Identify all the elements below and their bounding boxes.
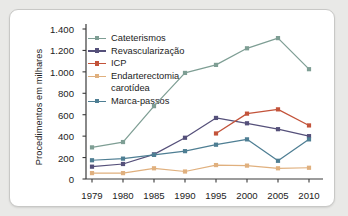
- series-marker: [307, 166, 311, 170]
- chart-plot-area: [10, 10, 336, 208]
- series-marker: [152, 166, 156, 170]
- series-marker: [121, 157, 125, 161]
- series-marker: [245, 121, 249, 125]
- series-marker: [183, 169, 187, 173]
- series-marker: [245, 164, 249, 168]
- series-marker: [90, 171, 94, 175]
- series-marker: [214, 131, 218, 135]
- series-marker: [121, 162, 125, 166]
- series-marker: [307, 123, 311, 127]
- series-marker: [121, 140, 125, 144]
- series-line: [216, 109, 309, 133]
- series-marker: [276, 36, 280, 40]
- series-marker: [245, 46, 249, 50]
- series-marker: [307, 137, 311, 141]
- series-marker: [90, 145, 94, 149]
- series-marker: [214, 63, 218, 67]
- series-marker: [276, 107, 280, 111]
- series-marker: [307, 67, 311, 71]
- series-marker: [276, 166, 280, 170]
- series-marker: [245, 137, 249, 141]
- series-marker: [183, 71, 187, 75]
- chart-card: Procedimentos em milhares 1.400 1.200 1.…: [9, 9, 335, 207]
- series-marker: [152, 153, 156, 157]
- series-marker: [276, 159, 280, 163]
- series-marker: [183, 136, 187, 140]
- series-marker: [152, 104, 156, 108]
- series-marker: [90, 165, 94, 169]
- series-marker: [245, 112, 249, 116]
- series-marker: [90, 158, 94, 162]
- series-marker: [121, 171, 125, 175]
- series-marker: [214, 163, 218, 167]
- series-marker: [183, 149, 187, 153]
- series-marker: [214, 143, 218, 147]
- series-marker: [214, 116, 218, 120]
- series-marker: [276, 127, 280, 131]
